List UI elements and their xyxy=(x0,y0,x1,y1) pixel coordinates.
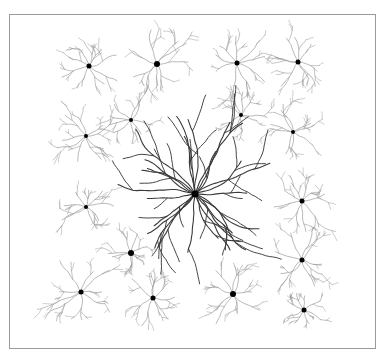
dendrite xyxy=(78,118,86,137)
dendrite xyxy=(257,35,265,44)
dendrite xyxy=(112,187,122,189)
soma xyxy=(154,61,160,67)
small-neuron xyxy=(274,168,337,241)
dendrite xyxy=(129,227,131,230)
dendrite xyxy=(56,304,65,321)
dendrite xyxy=(59,314,60,323)
dendrite xyxy=(79,38,85,43)
dendrite xyxy=(192,95,205,131)
dendrite xyxy=(302,201,306,231)
dendrite xyxy=(313,304,322,307)
dendrite xyxy=(281,179,285,191)
dendrite xyxy=(211,285,233,294)
dendrite xyxy=(134,64,157,77)
soma xyxy=(300,199,305,204)
soma xyxy=(302,308,307,313)
soma xyxy=(291,130,295,134)
dendrite xyxy=(131,288,141,293)
dendrite xyxy=(289,322,293,325)
dendrite xyxy=(168,229,180,261)
dendrite xyxy=(110,105,112,112)
dendrite xyxy=(97,118,101,120)
dendrite xyxy=(289,20,293,27)
small-neuron xyxy=(57,38,117,96)
dendrite xyxy=(302,201,319,227)
dendrite xyxy=(236,243,282,260)
dendrite xyxy=(136,319,139,325)
dendrite xyxy=(237,41,260,64)
dendrite xyxy=(105,304,110,312)
dendrite xyxy=(145,86,148,94)
dendrite xyxy=(81,292,83,320)
dendrite xyxy=(237,63,265,82)
dendrite xyxy=(218,101,226,106)
dendrite xyxy=(55,313,62,314)
dendrite xyxy=(329,203,331,210)
dendrite xyxy=(315,76,321,81)
dendrite xyxy=(261,138,262,144)
dendrite xyxy=(233,137,237,168)
dendrite xyxy=(102,192,108,197)
dendrite xyxy=(96,123,101,126)
soma xyxy=(84,205,88,209)
dendrite xyxy=(147,84,157,101)
dendrite xyxy=(161,240,162,274)
dendrite xyxy=(119,223,120,230)
dendrite xyxy=(332,283,338,285)
dendrite xyxy=(149,120,160,124)
dendrite xyxy=(59,119,66,125)
dendrite xyxy=(242,93,250,100)
dendrite xyxy=(276,240,279,246)
dendrite xyxy=(159,312,163,321)
dendrite xyxy=(161,37,165,39)
dendrite xyxy=(300,182,304,185)
dendrite xyxy=(54,154,58,164)
dendrite xyxy=(290,99,291,105)
soma xyxy=(87,64,92,69)
dendrite xyxy=(184,62,193,71)
dendrite xyxy=(103,131,110,136)
soma xyxy=(79,290,84,295)
soma xyxy=(192,191,199,198)
dendrite xyxy=(329,203,336,205)
dendrite xyxy=(205,287,218,288)
dendrite xyxy=(98,38,99,50)
dendrite xyxy=(160,120,164,123)
dendrite xyxy=(251,69,257,80)
dendrite xyxy=(318,198,329,203)
small-neuron xyxy=(199,258,268,324)
dendrite xyxy=(153,277,158,298)
dendrite xyxy=(297,201,303,226)
dendrite xyxy=(127,232,131,254)
dendrite xyxy=(236,36,237,63)
dendrite xyxy=(102,248,112,254)
dendrite xyxy=(284,315,290,319)
dendrite xyxy=(332,231,337,241)
dendrite xyxy=(248,263,257,265)
dendrite xyxy=(139,216,167,218)
dendrite xyxy=(133,138,137,143)
dendrite xyxy=(284,219,292,220)
dendrite xyxy=(126,100,131,101)
dendrite xyxy=(82,66,89,86)
dendrite xyxy=(297,223,298,234)
dendrite xyxy=(233,263,236,275)
soma xyxy=(300,258,305,263)
dendrite xyxy=(211,67,219,69)
dendrite xyxy=(302,228,313,261)
dendrite xyxy=(217,302,223,311)
dendrite xyxy=(281,172,285,179)
dendrite xyxy=(104,157,106,162)
dendrite xyxy=(284,321,287,322)
dendrite xyxy=(167,144,176,180)
dendrite xyxy=(126,311,127,317)
dendrite xyxy=(151,273,154,283)
dendrite xyxy=(292,317,300,318)
soma xyxy=(84,134,88,138)
dendrite xyxy=(101,117,103,120)
dendrite xyxy=(225,315,226,321)
dendrite xyxy=(147,276,152,277)
dendrite xyxy=(123,232,127,239)
dendrite xyxy=(206,306,212,309)
soma xyxy=(129,118,133,122)
